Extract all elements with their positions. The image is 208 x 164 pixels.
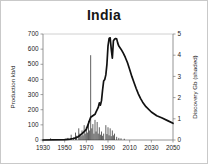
- x-tick-label: 1930: [36, 144, 51, 151]
- y-tick-label-left: 0: [35, 136, 39, 143]
- plot-area: 0100200300400500600700 012345 1930195019…: [1, 1, 208, 164]
- y-tick-label-left: 100: [28, 121, 39, 128]
- x-tick-label: 1990: [101, 144, 116, 151]
- y-axis-left-title: Production kb/d: [9, 65, 16, 109]
- y-tick-label-left: 400: [28, 76, 39, 83]
- x-tick-label: 1950: [58, 144, 73, 151]
- x-axis: 1930195019701990201020302050: [36, 140, 181, 151]
- chart-svg: 0100200300400500600700 012345 1930195019…: [1, 1, 208, 164]
- y-axis-left: 0100200300400500600700: [28, 30, 43, 143]
- x-tick-label: 2010: [123, 144, 138, 151]
- y-tick-label-left: 700: [28, 30, 39, 37]
- y-tick-label-left: 600: [28, 45, 39, 52]
- y-tick-label-right: 0: [178, 136, 182, 143]
- x-tick-label: 2050: [166, 144, 181, 151]
- chart-frame: India 0100200300400500600700 012345 1930…: [0, 0, 208, 164]
- y-tick-label-right: 5: [178, 30, 182, 37]
- y-tick-label-left: 200: [28, 106, 39, 113]
- y-tick-label-left: 300: [28, 91, 39, 98]
- y-tick-label-right: 4: [178, 51, 182, 58]
- y-tick-label-left: 500: [28, 60, 39, 67]
- y-axis-right: 012345: [173, 30, 182, 143]
- y-axis-right-title: Discovery Gb (shaded): [191, 55, 198, 118]
- y-tick-label-right: 3: [178, 73, 182, 80]
- y-tick-label-right: 2: [178, 94, 182, 101]
- x-tick-label: 1970: [79, 144, 94, 151]
- y-tick-label-right: 1: [178, 115, 182, 122]
- x-tick-label: 2030: [144, 144, 159, 151]
- production-line-series: [43, 38, 173, 140]
